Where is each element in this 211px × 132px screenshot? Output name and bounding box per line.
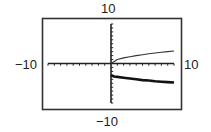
upper-curve [111, 51, 174, 64]
lower-curve [111, 75, 174, 82]
graph-window [0, 0, 211, 132]
plot-series [111, 51, 174, 83]
